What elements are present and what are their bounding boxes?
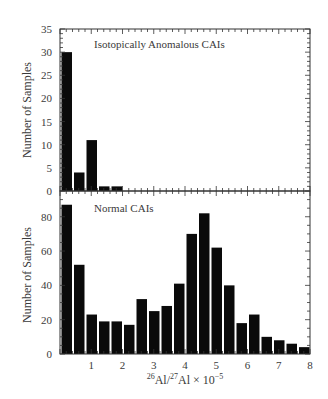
x-tick-label: 3 (151, 359, 157, 371)
histogram-bar (187, 234, 198, 354)
y-tick-label: 80 (41, 211, 53, 223)
x-axis-title: 26Al/27Al × 10−5 (147, 372, 224, 387)
x-tick-label: 7 (276, 359, 282, 371)
histogram-bar (299, 347, 310, 354)
histogram-bar (162, 306, 173, 354)
plot-frame (60, 191, 310, 354)
x-tick-label: 5 (214, 359, 220, 371)
y-tick-label: 30 (41, 46, 53, 58)
histogram-bar (224, 285, 235, 354)
y-tick-label: 20 (41, 92, 53, 104)
histogram-bar (262, 337, 273, 354)
y-axis-title-top: Number of Samples (20, 62, 34, 158)
histogram-figure: 05101520253035 02040608012345678 Isotopi… (0, 0, 328, 399)
histogram-bar (174, 284, 185, 354)
histogram-bar (99, 321, 110, 354)
plot-frame (60, 29, 310, 191)
histogram-bar (87, 315, 98, 354)
histogram-bar (249, 315, 260, 354)
top-panel-label: Isotopically Anomalous CAIs (94, 38, 225, 50)
histogram-bar (112, 321, 123, 354)
x-tick-label: 1 (89, 359, 95, 371)
histogram-bar (62, 205, 73, 354)
histogram-bar (237, 323, 248, 354)
y-tick-label: 0 (47, 185, 53, 197)
y-tick-label: 5 (47, 162, 53, 174)
y-tick-label: 25 (41, 69, 53, 81)
histogram-bar (74, 172, 85, 191)
x-tick-label: 4 (182, 359, 188, 371)
bottom-panel: 02040608012345678 (41, 191, 313, 371)
y-tick-label: 35 (41, 23, 53, 35)
histogram-bar (124, 325, 135, 354)
histogram-bar (137, 299, 148, 354)
histogram-bar (287, 344, 298, 354)
histogram-bar (74, 265, 85, 354)
y-tick-label: 60 (41, 245, 53, 257)
y-tick-label: 0 (47, 348, 53, 360)
histogram-bar (212, 248, 223, 354)
y-axis-title-bottom: Number of Samples (20, 227, 34, 323)
histogram-bar (87, 140, 98, 191)
y-tick-label: 40 (41, 279, 53, 291)
histogram-bar (274, 340, 285, 354)
bottom-panel-label: Normal CAIs (94, 202, 154, 214)
x-tick-label: 2 (120, 359, 126, 371)
histogram-bar (112, 186, 123, 191)
histogram-bar (99, 186, 110, 191)
x-tick-label: 6 (245, 359, 251, 371)
histogram-bar (199, 213, 210, 354)
y-tick-label: 15 (41, 116, 53, 128)
y-tick-label: 20 (41, 314, 53, 326)
histogram-bar (149, 311, 160, 354)
x-tick-label: 8 (307, 359, 313, 371)
y-tick-label: 10 (41, 139, 53, 151)
